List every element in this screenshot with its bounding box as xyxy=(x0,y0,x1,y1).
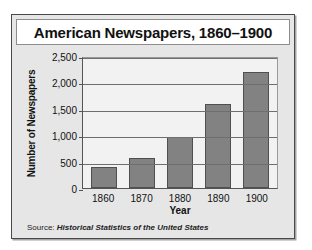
x-axis-tick-label: 1890 xyxy=(205,193,231,204)
bar xyxy=(129,158,155,188)
y-axis-title: Number of Newspapers xyxy=(25,57,39,189)
source-label: Source: xyxy=(27,223,55,232)
source-note: Source: Historical Statistics of the Uni… xyxy=(27,223,208,232)
bar xyxy=(243,72,269,188)
y-axis-tick-mark xyxy=(79,164,83,165)
y-axis-tick-label: 1,000 xyxy=(52,131,77,142)
bar-series xyxy=(83,58,277,188)
bar xyxy=(205,104,231,188)
y-axis-tick-label: 2,500 xyxy=(52,52,77,63)
gridline xyxy=(83,164,277,165)
x-axis-tick-label: 1860 xyxy=(90,193,116,204)
y-axis-tick-mark xyxy=(79,111,83,112)
y-axis-tick-mark xyxy=(79,137,83,138)
y-axis-tick-label: 500 xyxy=(60,157,77,168)
y-axis-tick-labels: 05001,0001,5002,0002,500 xyxy=(38,57,80,189)
gridline xyxy=(83,137,277,138)
screenshot-root: American Newspapers, 1860–1900 Number of… xyxy=(0,0,312,250)
chart-title-band: American Newspapers, 1860–1900 xyxy=(16,19,290,45)
x-axis-title: Year xyxy=(82,205,278,216)
bar xyxy=(91,167,117,188)
bar xyxy=(167,137,193,188)
chart-body: Number of Newspapers 05001,0001,5002,000… xyxy=(16,47,290,235)
gridline xyxy=(83,84,277,85)
x-axis-tick-label: 1870 xyxy=(129,193,155,204)
y-axis-tick-label: 2,000 xyxy=(52,78,77,89)
y-axis-tick-mark xyxy=(79,84,83,85)
gridline xyxy=(83,111,277,112)
y-axis-tick-label: 1,500 xyxy=(52,104,77,115)
y-axis-tick-label: 0 xyxy=(71,184,77,195)
x-axis-tick-labels: 18601870188018901900 xyxy=(82,191,278,205)
plot-area xyxy=(82,57,278,189)
y-axis-title-text: Number of Newspapers xyxy=(27,69,38,177)
chart-title: American Newspapers, 1860–1900 xyxy=(34,24,272,41)
y-axis-tick-mark xyxy=(79,58,83,59)
chart-figure: American Newspapers, 1860–1900 Number of… xyxy=(11,14,295,239)
gridline xyxy=(83,58,277,59)
x-axis-tick-label: 1880 xyxy=(167,193,193,204)
source-title: Historical Statistics of the United Stat… xyxy=(57,223,209,232)
x-axis-tick-label: 1900 xyxy=(244,193,270,204)
